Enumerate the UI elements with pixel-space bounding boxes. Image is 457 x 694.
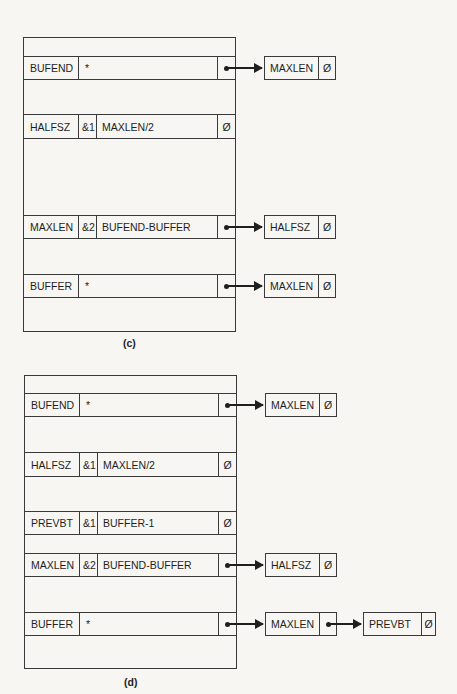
symbol-value: * (79, 57, 218, 79)
null-cell: Ø (320, 554, 336, 576)
symbol-index: &1 (80, 453, 98, 476)
arrow-icon (228, 285, 262, 287)
symbol-table-c: BUFEND * HALFSZ &1 MAXLEN/2 Ø MAXLEN &2 … (23, 37, 236, 332)
ref-name: HALFSZ (265, 216, 319, 238)
symbol-index: &1 (79, 115, 97, 138)
symbol-name: BUFFER (24, 275, 79, 297)
ref-name: MAXLEN (266, 394, 320, 416)
table-row-halfsz: HALFSZ &1 MAXLEN/2 Ø (25, 452, 236, 477)
arrow-icon (329, 623, 361, 625)
symbol-value: BUFEND-BUFFER (97, 216, 218, 238)
symbol-value: MAXLEN/2 (97, 115, 218, 138)
symbol-index: &2 (80, 554, 98, 576)
symbol-index: &2 (79, 216, 97, 238)
symbol-index: &1 (80, 512, 98, 534)
symbol-name: MAXLEN (25, 554, 80, 576)
table-row-maxlen: MAXLEN &2 BUFEND-BUFFER (25, 553, 236, 577)
ref-name: MAXLEN (266, 613, 320, 635)
null-cell: Ø (319, 216, 335, 238)
arrow-icon (229, 623, 263, 625)
symbol-value: * (80, 394, 219, 416)
table-row-halfsz: HALFSZ &1 MAXLEN/2 Ø (24, 114, 235, 139)
null-cell: Ø (422, 613, 435, 635)
table-row-prevbt: PREVBT &1 BUFFER-1 Ø (25, 511, 236, 535)
symbol-name: BUFFER (25, 613, 80, 635)
symbol-value: BUFEND-BUFFER (98, 554, 219, 576)
arrow-icon (228, 67, 262, 69)
table-row-maxlen: MAXLEN &2 BUFEND-BUFFER (24, 215, 235, 239)
ref-node: MAXLEN Ø (264, 56, 336, 80)
ref-name: MAXLEN (265, 57, 319, 79)
table-row-buffer: BUFFER * (24, 274, 235, 298)
null-cell: Ø (319, 275, 335, 297)
null-cell: Ø (219, 512, 236, 534)
symbol-name: MAXLEN (24, 216, 79, 238)
ref-name: PREVBT (364, 613, 422, 635)
ref-node: MAXLEN Ø (265, 393, 337, 417)
ref-name: MAXLEN (265, 275, 319, 297)
symbol-value: MAXLEN/2 (98, 453, 219, 476)
symbol-name: BUFEND (24, 57, 79, 79)
symbol-name: BUFEND (25, 394, 80, 416)
ref-node: MAXLEN Ø (264, 274, 336, 298)
ref-node: PREVBT Ø (363, 612, 436, 636)
symbol-value: * (79, 275, 218, 297)
symbol-table-d: BUFEND * HALFSZ &1 MAXLEN/2 Ø PREVBT &1 … (24, 375, 237, 669)
table-row-bufend: BUFEND * (24, 56, 235, 80)
arrow-icon (229, 404, 263, 406)
symbol-name: PREVBT (25, 512, 80, 534)
table-row-bufend: BUFEND * (25, 393, 236, 417)
ref-node: HALFSZ Ø (265, 553, 337, 577)
table-row-buffer: BUFFER * (25, 612, 236, 636)
symbol-value: * (80, 613, 219, 635)
caption-d: (d) (124, 676, 137, 688)
null-cell: Ø (218, 115, 235, 138)
null-cell: Ø (319, 57, 335, 79)
null-cell: Ø (320, 394, 336, 416)
symbol-value: BUFFER-1 (98, 512, 219, 534)
ref-node: HALFSZ Ø (264, 215, 336, 239)
symbol-name: HALFSZ (24, 115, 79, 138)
arrow-icon (228, 226, 262, 228)
null-cell: Ø (219, 453, 236, 476)
symbol-name: HALFSZ (25, 453, 80, 476)
ref-name: HALFSZ (266, 554, 320, 576)
caption-c: (c) (123, 337, 136, 349)
ref-node: MAXLEN (265, 612, 337, 636)
arrow-icon (229, 564, 263, 566)
